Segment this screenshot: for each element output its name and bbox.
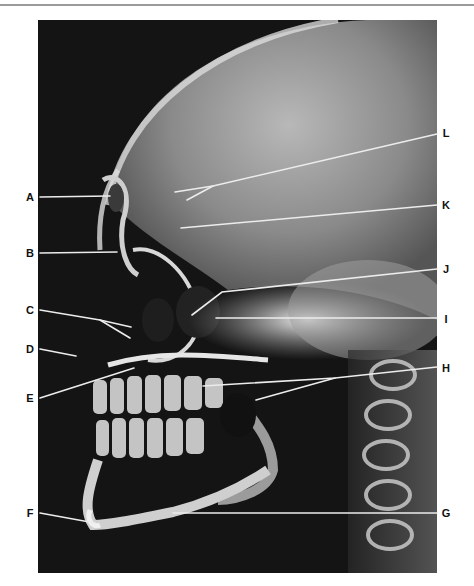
label-h: H (440, 362, 452, 374)
label-i: I (440, 313, 452, 325)
label-g: G (440, 507, 452, 519)
radiograph-illustration (38, 20, 437, 573)
label-l: L (440, 127, 452, 139)
label-b: B (24, 247, 36, 259)
label-d: D (24, 343, 36, 355)
label-k: K (440, 199, 452, 211)
label-f: F (24, 507, 36, 519)
label-a: A (24, 191, 36, 203)
skull-radiograph (38, 20, 437, 573)
label-e: E (24, 392, 36, 404)
label-j: J (440, 263, 452, 275)
top-divider (0, 4, 474, 6)
label-c: C (24, 304, 36, 316)
